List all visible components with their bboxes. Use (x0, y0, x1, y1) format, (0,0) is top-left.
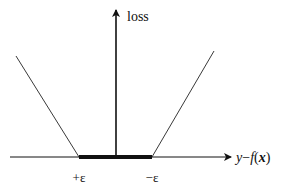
loss-right-slope (152, 51, 214, 157)
x-label-minus: − (242, 150, 250, 165)
x-label-close: ) (266, 150, 271, 166)
loss-left-slope (16, 56, 79, 157)
x-axis-label: y−f(x) (234, 150, 271, 166)
y-axis-label: loss (127, 9, 149, 24)
loss-diagram: loss y−f(x) +ε −ε (0, 0, 288, 188)
tick-plus-epsilon: +ε (73, 170, 86, 185)
x-label-x: x (258, 150, 266, 165)
tick-minus-epsilon: −ε (146, 170, 159, 185)
diagram-canvas: loss y−f(x) +ε −ε (0, 0, 288, 188)
